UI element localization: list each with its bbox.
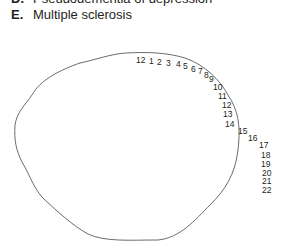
clock-outline xyxy=(15,53,239,241)
clock-number: 7 xyxy=(198,66,203,76)
clock-number: 5 xyxy=(183,61,188,71)
clock-number: 15 xyxy=(238,126,248,136)
clock-number: 6 xyxy=(191,64,196,74)
clock-number: 16 xyxy=(248,133,258,143)
clock-number: 22 xyxy=(262,185,272,195)
clock-number: 1 xyxy=(149,56,154,66)
clock-number: 3 xyxy=(166,58,171,68)
clock-number: 14 xyxy=(225,119,235,129)
clock-number: 13 xyxy=(223,109,233,119)
clock-number: 4 xyxy=(176,59,181,69)
clock-drawing-figure: 1212345678910111213141516171819202122 xyxy=(0,0,301,249)
clock-number: 17 xyxy=(259,140,269,150)
clock-number: 12 xyxy=(136,55,146,65)
clock-numbers: 1212345678910111213141516171819202122 xyxy=(136,55,272,195)
clock-number: 2 xyxy=(157,57,162,67)
